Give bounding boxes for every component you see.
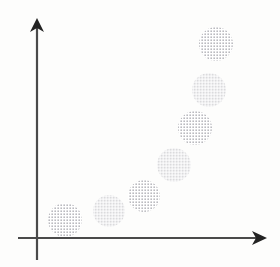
data-point-marker — [178, 111, 212, 145]
data-point-marker — [93, 195, 125, 227]
y-axis — [30, 18, 44, 260]
data-point-marker — [192, 73, 226, 107]
chart-figure: Schematic scatter diagram: seven dotted … — [0, 0, 280, 267]
data-point-marker — [48, 203, 82, 237]
data-point-marker — [199, 27, 233, 61]
data-point-marker — [157, 148, 191, 182]
data-point-marker — [128, 180, 160, 212]
scatter-plot-canvas — [0, 0, 280, 267]
data-markers-group — [48, 27, 233, 237]
